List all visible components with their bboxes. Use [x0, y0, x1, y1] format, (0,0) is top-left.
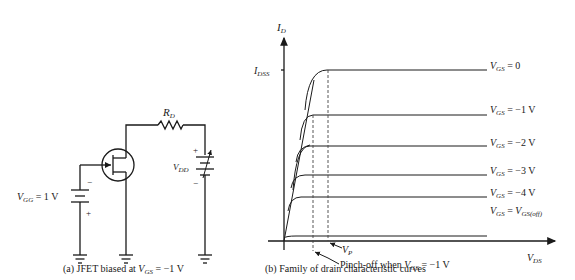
curve-vgs-2 [296, 146, 400, 162]
vp-arrow [330, 243, 342, 248]
curve-label-vgs-3: VGS = −3 V [490, 165, 536, 178]
vdd-label: VDD [173, 162, 189, 174]
chart-caption: (b) Family of drain characteristic curve… [265, 263, 426, 275]
curve-vgs-0 [305, 70, 400, 110]
circuit-caption: (a) JFET biased at VGS = −1 V [63, 263, 185, 276]
y-axis-label: ID [276, 21, 286, 35]
vgg-label: VGG = 1 V [17, 191, 59, 204]
curve-vgs-off [284, 236, 400, 238]
vdd-plus-sign: + [193, 145, 198, 155]
curve-vgs-1 [300, 115, 400, 140]
jfet-circuit: RD + − VDD − + VGG = 1 V [17, 106, 214, 276]
curve-label-vgs-1: VGS = −1 V [490, 104, 536, 117]
vdd-minus-sign: − [193, 178, 198, 188]
jfet-diagram: RD + − VDD − + VGG = 1 V [0, 0, 575, 280]
vgg-plus-sign: + [86, 208, 91, 218]
resistor-icon [158, 121, 183, 129]
vdd-battery-icon [196, 150, 214, 255]
drain-wire [126, 125, 158, 150]
curve-label-vgs-0: VGS = 0 [490, 60, 520, 73]
ground-icon [73, 255, 87, 263]
idss-label: IDSS [253, 65, 270, 78]
curve-vgs-3 [291, 175, 400, 188]
vgg-battery-icon [71, 190, 89, 255]
ground-icon [119, 255, 133, 263]
curve-vgs-4 [288, 197, 400, 211]
curve-label-vgs-off: VGS = VGS(off) [490, 205, 543, 218]
curve-label-vgs-4: VGS = −4 V [490, 187, 536, 200]
resistor-label: RD [162, 106, 175, 120]
vp-label: VP [342, 244, 353, 257]
curve-label-vgs-2: VGS = −2 V [490, 137, 536, 150]
drain-characteristics-chart: ID VDS IDSS VP Pinch-off when VGS = −1 V [253, 21, 555, 275]
vgg-minus-sign: − [87, 177, 92, 187]
x-axis-label: VDS [527, 252, 542, 265]
ground-icon [198, 255, 212, 263]
ohmic-region-line [284, 80, 314, 241]
ohmic-connector [293, 145, 310, 190]
